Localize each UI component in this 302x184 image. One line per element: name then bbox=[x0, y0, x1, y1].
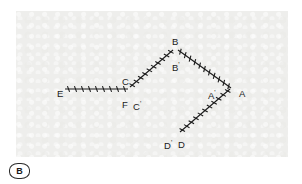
traverse-drawing bbox=[16, 11, 288, 157]
segment-C-B bbox=[129, 50, 173, 87]
vertex-label-E: E bbox=[57, 89, 63, 99]
vertex-label-D: D bbox=[178, 140, 185, 150]
vertex-label-text: E bbox=[57, 88, 63, 99]
vertex-label-Ap: A' bbox=[208, 89, 216, 101]
vertex-label-text: B bbox=[172, 36, 178, 47]
vertex-label-prime: ' bbox=[214, 89, 215, 96]
segment-B-A bbox=[178, 49, 231, 90]
vertex-label-text: C bbox=[122, 76, 129, 87]
vertex-label-C: C bbox=[122, 77, 129, 87]
vertex-label-Cp: C' bbox=[133, 100, 141, 112]
vertex-label-prime: ' bbox=[178, 61, 179, 68]
vertex-label-text: A bbox=[239, 88, 245, 99]
segments-group bbox=[65, 49, 231, 132]
segment-E-F bbox=[65, 86, 128, 92]
vertex-label-F: F bbox=[122, 100, 128, 110]
vertex-label-Bp: B' bbox=[172, 61, 180, 73]
vertex-label-prime: ' bbox=[171, 139, 172, 146]
vertex-label-Dp: D' bbox=[164, 139, 172, 151]
segment-A-D bbox=[180, 89, 231, 132]
vertex-label-B: B bbox=[172, 37, 178, 47]
figure-caption-label: B bbox=[16, 166, 23, 176]
vertex-label-text: F bbox=[122, 99, 128, 110]
vertex-label-text: D bbox=[164, 140, 171, 151]
vertex-label-text: D bbox=[178, 139, 185, 150]
figure-root: ECFC'BB'A'AD'D B bbox=[0, 0, 302, 184]
figure-caption-badge: B bbox=[9, 163, 30, 179]
vertex-label-prime: ' bbox=[140, 100, 141, 107]
vertex-label-text: C bbox=[133, 101, 140, 112]
figure-panel: ECFC'BB'A'AD'D bbox=[16, 11, 288, 157]
vertex-label-A: A bbox=[239, 89, 245, 99]
